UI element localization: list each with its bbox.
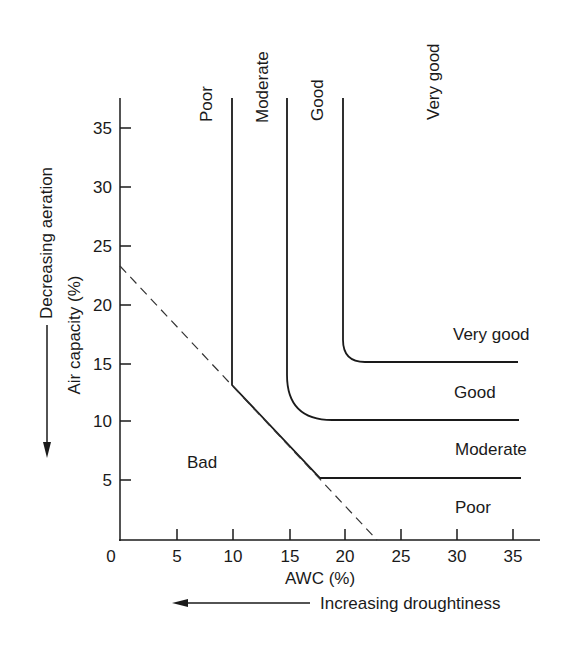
y-axis-label: Air capacity (%) [65,275,84,394]
svg-text:20: 20 [93,296,112,315]
svg-text:35: 35 [504,547,523,566]
svg-text:5: 5 [103,471,112,490]
svg-text:15: 15 [281,547,300,566]
svg-text:Good: Good [308,79,327,121]
svg-text:Moderate: Moderate [455,440,527,459]
y-ticks [120,128,131,480]
good-verygood-boundary [343,98,518,362]
y-arrow-icon [43,325,51,458]
svg-text:5: 5 [172,547,181,566]
x-axis-label: AWC (%) [285,569,355,588]
svg-text:25: 25 [392,547,411,566]
svg-text:35: 35 [93,119,112,138]
x-tick-labels: 0 5 10 15 20 25 30 35 [106,547,522,566]
bad-boundary-dashed [120,266,377,540]
svg-text:10: 10 [224,547,243,566]
poor-moderate-boundary [232,98,521,478]
y-arrow-label: Decreasing aeration [37,167,56,319]
svg-text:Good: Good [454,383,496,402]
svg-text:15: 15 [93,355,112,374]
svg-text:0: 0 [106,547,115,566]
svg-text:20: 20 [336,547,355,566]
svg-text:Very good: Very good [424,43,443,120]
svg-text:Poor: Poor [455,498,491,517]
x-ticks [177,529,513,540]
right-region-labels: Very good Good Moderate Poor [453,325,530,517]
y-tick-labels: 35 30 25 20 15 10 5 [93,119,112,490]
moderate-good-boundary [287,98,519,420]
svg-text:Poor: Poor [197,86,216,122]
x-arrow-label: Increasing droughtiness [320,594,501,613]
svg-text:30: 30 [93,178,112,197]
svg-text:30: 30 [448,547,467,566]
svg-text:Very good: Very good [453,325,530,344]
x-arrow-icon [172,599,310,607]
svg-text:Moderate: Moderate [253,51,272,123]
top-region-labels: Poor Moderate Good Very good [197,43,443,123]
chart: 35 30 25 20 15 10 5 0 5 10 15 20 25 30 3… [0,0,580,645]
bad-region-label: Bad [187,453,217,472]
svg-text:10: 10 [93,412,112,431]
svg-text:25: 25 [93,237,112,256]
